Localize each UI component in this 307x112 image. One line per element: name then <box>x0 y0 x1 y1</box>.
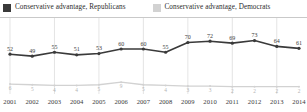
x-tick-label: 2007 <box>137 97 150 106</box>
data-label: 64 <box>274 38 280 44</box>
x-tick-label: 2006 <box>114 97 127 106</box>
x-tick-label: 2001 <box>3 97 16 106</box>
data-label: 2 <box>298 88 301 94</box>
plot-area: 65445954332222 5249555153606055707269736… <box>0 18 307 94</box>
data-label: 4 <box>164 87 167 93</box>
legend-swatch-dark-icon <box>3 4 11 12</box>
data-point <box>53 51 56 54</box>
line-chart-figure: Conservative advantage, Republicans Cons… <box>0 0 307 112</box>
data-label: 60 <box>140 41 146 47</box>
x-tick-label: 2013 <box>270 97 283 106</box>
data-label: 5 <box>31 86 34 92</box>
data-label: 2 <box>275 88 278 94</box>
data-label: 53 <box>96 45 102 51</box>
data-label: 60 <box>118 41 124 47</box>
data-label: 52 <box>7 46 13 52</box>
data-label: 69 <box>229 35 235 41</box>
x-tick-label: 2005 <box>92 97 105 106</box>
legend-item-democrats[interactable]: Conservative advantage, Democrats <box>153 3 271 12</box>
x-tick-label: 2010 <box>203 97 216 106</box>
x-tick-label: 2009 <box>181 97 194 106</box>
data-point <box>231 42 234 45</box>
data-label: 72 <box>207 33 213 39</box>
data-point <box>186 41 189 44</box>
data-point <box>97 52 100 55</box>
x-tick-label: 2008 <box>159 97 172 106</box>
data-point <box>75 53 78 56</box>
x-tick-label: 2004 <box>70 97 83 106</box>
data-label: 5 <box>98 86 101 92</box>
data-label: 6 <box>9 85 12 91</box>
x-tick-label: 2003 <box>48 97 61 106</box>
data-label: 4 <box>53 87 56 93</box>
data-point <box>297 47 300 50</box>
data-label: 5 <box>142 86 145 92</box>
x-tick-label: 2002 <box>25 97 38 106</box>
x-tick-label: 2011 <box>226 97 239 106</box>
data-label: 3 <box>209 87 212 93</box>
chart-legend: Conservative advantage, Republicans Cons… <box>0 1 307 14</box>
legend-label-republicans: Conservative advantage, Republicans <box>15 3 126 12</box>
data-label: 2 <box>231 88 234 94</box>
data-point <box>8 53 11 56</box>
legend-item-republicans[interactable]: Conservative advantage, Republicans <box>3 3 126 12</box>
gridlines <box>10 18 277 94</box>
x-axis: 2001200220032004200520062007200820092010… <box>0 95 307 111</box>
data-point <box>208 40 211 43</box>
data-label: 55 <box>51 44 57 50</box>
data-label: 61 <box>296 40 302 46</box>
data-point <box>275 45 278 48</box>
legend-label-democrats: Conservative advantage, Democrats <box>165 3 271 12</box>
data-label: 9 <box>120 83 123 89</box>
data-label: 4 <box>75 87 78 93</box>
plot-svg: 65445954332222 5249555153606055707269736… <box>0 18 307 94</box>
x-tick-label: 2012 <box>248 97 261 106</box>
data-point <box>120 47 123 50</box>
data-point <box>142 47 145 50</box>
data-label: 2 <box>253 88 256 94</box>
data-point <box>164 51 167 54</box>
data-point <box>253 39 256 42</box>
data-point <box>31 55 34 58</box>
data-label: 49 <box>29 48 35 54</box>
data-label: 70 <box>185 34 191 40</box>
legend-swatch-light-icon <box>153 4 161 12</box>
x-tick-label: 2014 <box>292 97 305 106</box>
data-label: 3 <box>186 87 189 93</box>
data-label: 51 <box>74 46 80 52</box>
data-label: 73 <box>252 32 258 38</box>
data-label: 55 <box>163 44 169 50</box>
